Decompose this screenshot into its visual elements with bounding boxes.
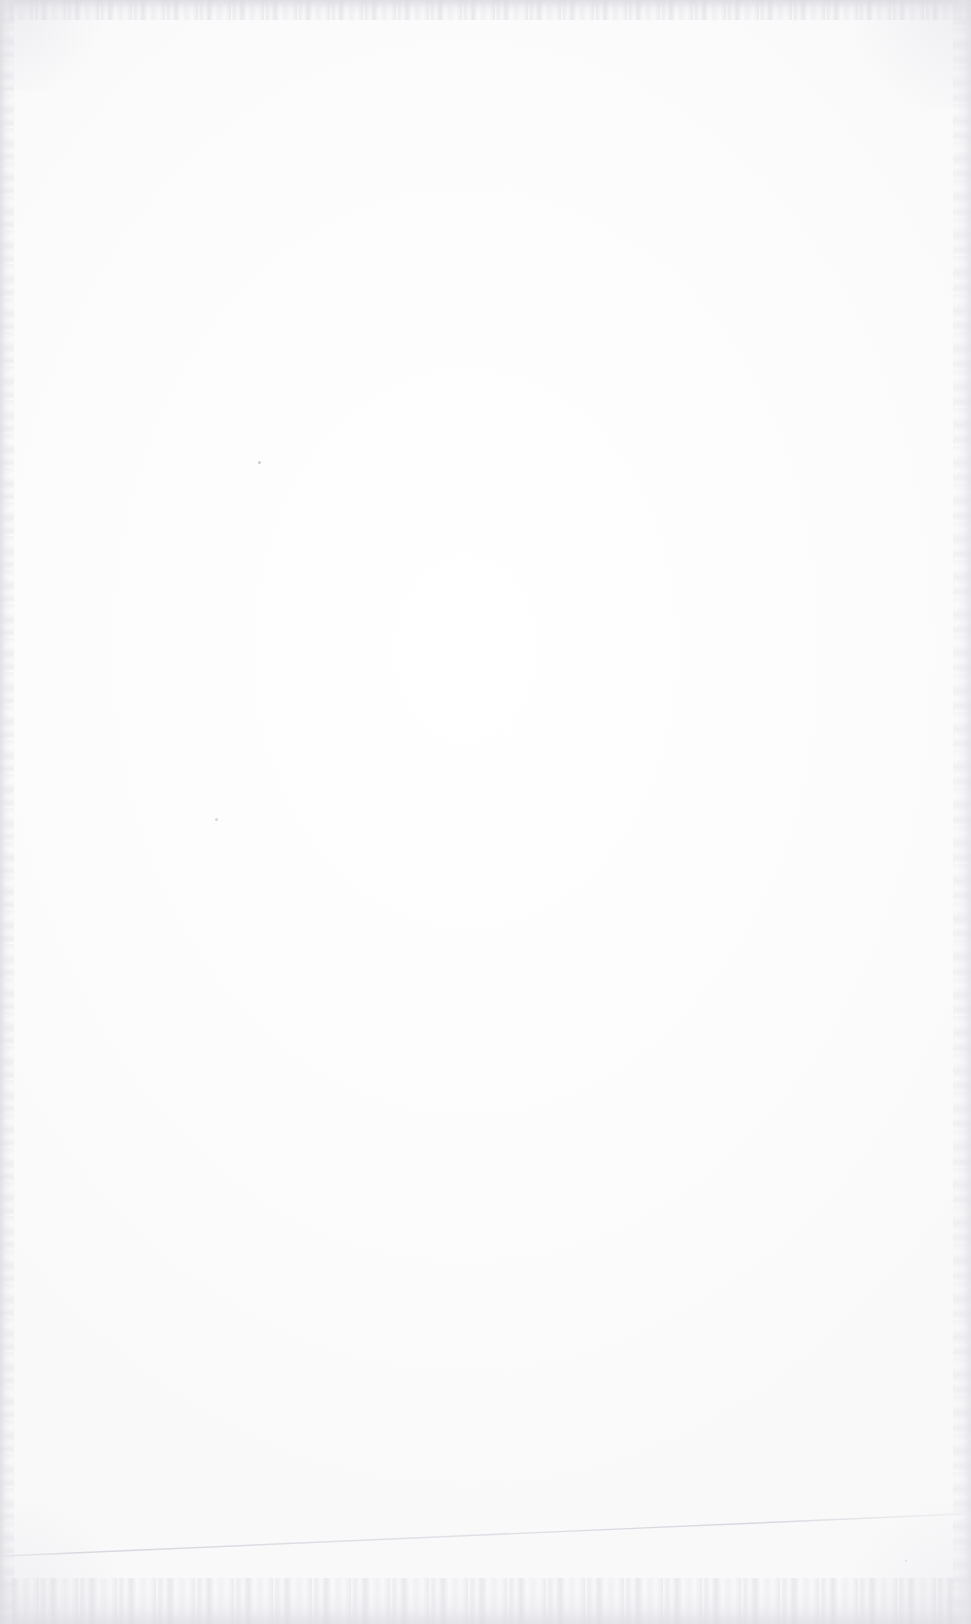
scanned-page [0,0,971,1624]
page-text-content [0,0,971,1624]
